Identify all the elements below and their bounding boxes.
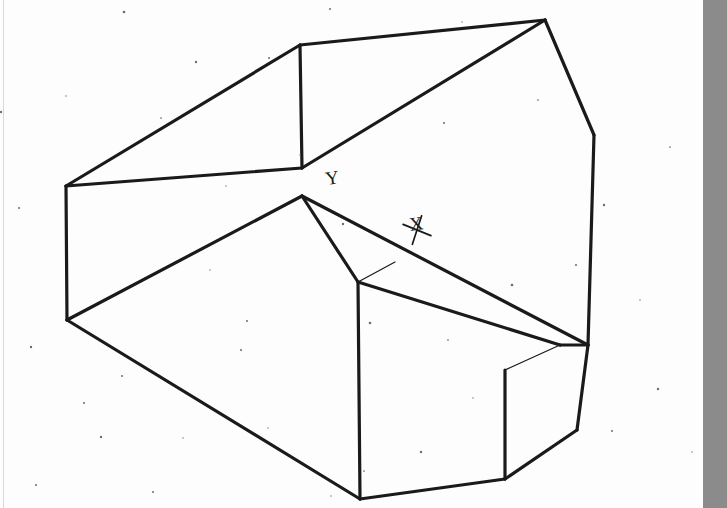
edge-bottom-left-long-diagonal [67,320,360,499]
scan-speckle-group [0,8,723,497]
edge-ridge-vertical [300,45,302,168]
scan-speckle [246,320,248,322]
scan-speckle [420,451,422,453]
scan-speckle [152,491,154,493]
scan-speckle [329,8,331,10]
scan-speckle [195,61,197,63]
annotation-group: YX [324,166,425,235]
edge-notch-inner-to-hub [505,345,560,370]
edge-notch-left-vertical [358,282,360,499]
scan-speckle [123,11,126,14]
scan-speckle [575,264,577,266]
scan-speckle [100,436,102,438]
edge-notch-thin-connector [358,262,395,282]
scan-speckle [511,284,514,287]
scan-speckle [0,111,2,113]
edge-right-ridge-descend [545,20,594,135]
scan-speckle [209,269,210,270]
drawing-svg: YX [0,0,727,508]
edge-right-lower-taper [577,345,588,430]
scan-speckle [691,451,692,452]
scan-speckle [121,375,123,377]
scan-speckle [461,21,462,22]
scan-speckle [240,349,242,351]
scanned-drawing-page: YX [0,0,727,508]
edge-notch-inner-diagonal [302,196,588,345]
scan-speckle [472,397,473,398]
scan-speckle [18,207,20,209]
edge-right-side-long [588,135,594,345]
scan-speckle [443,122,445,124]
edge-top-left-chamfer [66,45,300,186]
scan-speckle [83,402,85,404]
drawing-canvas: YX [0,0,727,508]
scan-speckle [657,388,659,390]
scan-speckle [225,185,226,186]
scan-speckle [160,117,162,119]
scan-speckle [447,339,449,341]
scan-speckle [537,99,539,101]
scan-speckle [369,322,372,325]
scan-edge-shadow [703,0,727,508]
scan-speckle [299,154,300,155]
scan-speckle [267,427,268,428]
edge-right-bottom-chamfer [505,430,577,479]
scan-speckle [30,346,32,348]
edge-bottom-edge [360,479,505,499]
scan-speckle [639,299,640,300]
scan-speckle [363,470,365,472]
scan-speckle [603,204,605,206]
edge-group [66,20,594,499]
scan-speckle [35,484,37,486]
scan-speckle [330,495,331,496]
axis-label-y: Y [324,166,341,189]
edge-left-lower-diagonal [67,196,302,320]
scan-speckle [669,146,671,148]
edge-left-upper-horizontal [66,168,302,186]
scan-speckle [65,95,66,96]
edge-left-vertical [66,186,67,320]
scan-speckle [268,57,270,59]
scan-speckle [342,223,344,225]
scan-speckle [182,437,183,438]
scan-speckle [611,430,613,432]
